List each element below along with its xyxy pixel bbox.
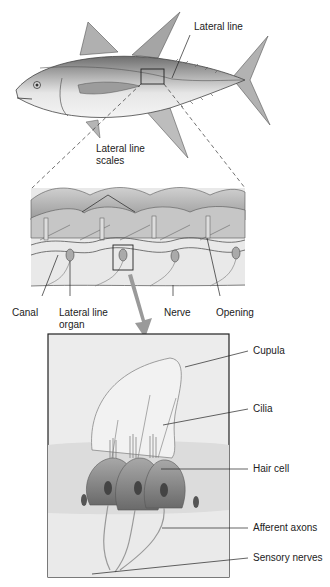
lateral-line-label: Lateral line <box>194 21 243 32</box>
organ-label-line2: organ <box>59 319 85 330</box>
sensory-nerves-label: Sensory nerves <box>253 552 322 563</box>
opening-label: Opening <box>216 307 254 318</box>
lateral-line-organ-detail <box>48 334 229 577</box>
lateral-line-scales-section <box>31 188 245 287</box>
cilia-label: Cilia <box>253 403 272 414</box>
canal-label: Canal <box>12 307 38 318</box>
tuna-fish-illustration <box>16 12 270 158</box>
scales-label-line2: scales <box>96 155 124 166</box>
hair-cell-label: Hair cell <box>253 463 289 474</box>
afferent-axons-label: Afferent axons <box>253 522 317 533</box>
scales-label-line1: Lateral line <box>96 143 145 154</box>
organ-label-line1: Lateral line <box>59 307 108 318</box>
cupula-label: Cupula <box>253 345 285 356</box>
lateral-line-diagram <box>0 0 330 587</box>
nerve-label: Nerve <box>164 307 191 318</box>
